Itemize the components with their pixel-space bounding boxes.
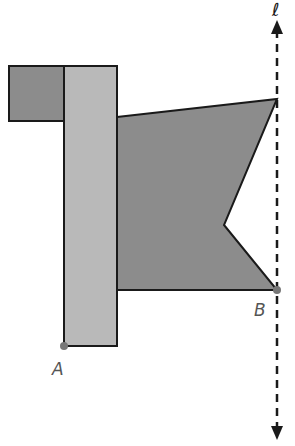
- point-b-label: B: [254, 300, 266, 320]
- dark-square: [9, 66, 64, 121]
- arrow-up-icon: [271, 20, 283, 34]
- diagram-canvas: ℓ A B: [0, 0, 295, 446]
- line-label-l: ℓ: [271, 0, 279, 20]
- point-b: [273, 286, 281, 294]
- point-a-label: A: [51, 359, 64, 379]
- point-a: [60, 342, 68, 350]
- arrow-down-icon: [271, 426, 283, 440]
- notched-pentagon: [117, 99, 277, 290]
- tall-rectangle: [64, 66, 117, 346]
